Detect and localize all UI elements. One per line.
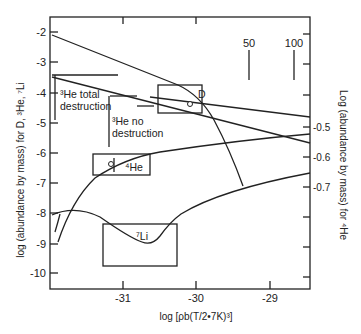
y-tick-left: -10: [30, 267, 46, 279]
y-tick-left: -6: [36, 147, 46, 159]
bbn-abundance-chart: -2 -3 -4 -5 -6 -7 -8 -9 -10 -0.5 -0.6 -0…: [0, 0, 361, 334]
right-ticks: [303, 34, 310, 277]
y-tick-left: -7: [36, 177, 46, 189]
x-axis-label: log [ρb(T/2•7K)³]: [159, 311, 232, 322]
he4-box-label: ⁴He: [125, 161, 143, 173]
marker-50-label: 50: [243, 37, 255, 49]
li7-curve-tail: [55, 214, 60, 232]
y-tick-left: -2: [36, 26, 46, 38]
y-axis-label-left: log (abundance by mass) for D, ³He, ⁷Li: [15, 82, 26, 257]
he3-total-label-2: destruction: [60, 100, 112, 112]
y-tick-left: -3: [36, 56, 46, 68]
li7-curve: [52, 173, 310, 243]
marker-100-label: 100: [285, 37, 303, 49]
he3-none-label-2: destruction: [112, 127, 164, 139]
d-box-label: D: [198, 88, 206, 100]
plot-frame: [50, 17, 310, 289]
x-tick: -30: [188, 292, 204, 304]
x-tick: -31: [115, 292, 131, 304]
d-point-marker: [188, 102, 193, 107]
he3-total-label-1: ³He total: [60, 88, 100, 100]
y-tick-left: -8: [36, 207, 46, 219]
bottom-ticks: [123, 17, 270, 289]
y-tick-right: -0.7: [313, 182, 331, 193]
he4-point-marker: [109, 162, 114, 167]
y-tick-left: -4: [36, 87, 46, 99]
he3-none-label-1: ³He no: [112, 115, 144, 127]
y-tick-right: -0.6: [313, 152, 331, 163]
he3-no-destruction-line: [150, 97, 310, 117]
y-tick-left: -9: [36, 238, 46, 250]
he4-curve: [58, 134, 310, 242]
left-ticks: [50, 32, 58, 273]
y-axis-label-right: Log (abundance by mass) for ⁴He: [338, 90, 349, 240]
y-tick-right: -0.5: [313, 122, 331, 133]
y-tick-left: -5: [36, 117, 46, 129]
x-tick: -29: [262, 292, 278, 304]
li7-box-label: ⁷Li: [136, 230, 148, 242]
